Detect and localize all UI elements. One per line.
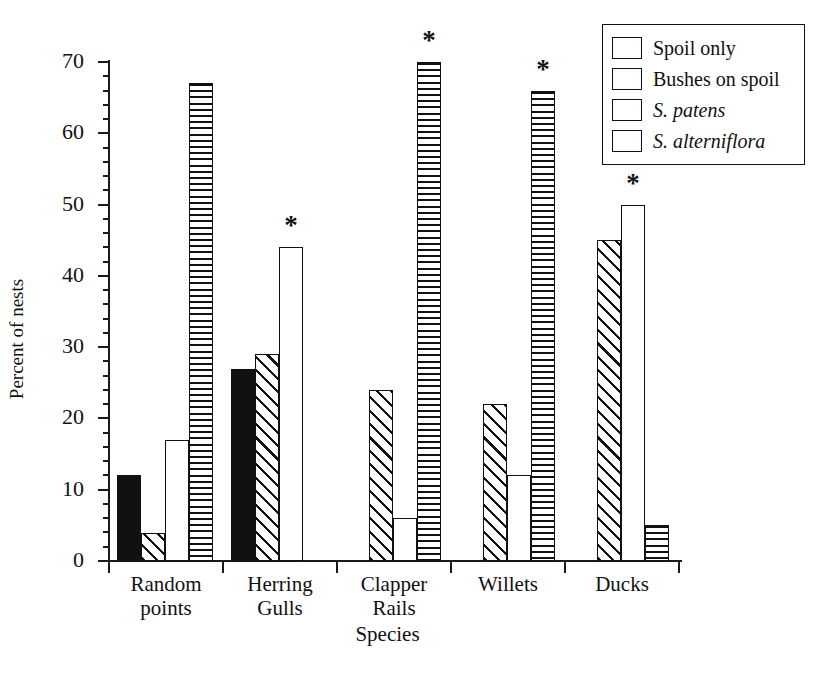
x-axis-category-label-line: Random bbox=[109, 573, 223, 597]
y-axis-minor-tick bbox=[103, 531, 109, 533]
x-axis-category-label-line: Rails bbox=[337, 597, 451, 621]
y-axis-tick-label: 20 bbox=[62, 406, 84, 428]
y-axis-minor-tick bbox=[103, 90, 109, 92]
bar bbox=[507, 475, 531, 561]
legend-swatch bbox=[612, 37, 642, 59]
legend-item: S. patens bbox=[612, 94, 795, 125]
bar bbox=[531, 91, 555, 561]
y-axis-minor-tick bbox=[103, 474, 109, 476]
y-axis-minor-tick bbox=[103, 189, 109, 191]
x-axis-category-label: Ducks bbox=[565, 573, 679, 597]
y-axis-minor-tick bbox=[103, 104, 109, 106]
y-axis-minor-tick bbox=[103, 432, 109, 434]
y-axis-minor-tick bbox=[103, 360, 109, 362]
y-axis-title: Percent of nests bbox=[6, 278, 28, 398]
bar bbox=[417, 62, 441, 561]
y-axis-minor-tick bbox=[103, 232, 109, 234]
legend-label: S. patens bbox=[653, 100, 725, 120]
y-axis-tick-label: 50 bbox=[62, 192, 84, 214]
bar bbox=[597, 240, 621, 561]
x-axis-tick bbox=[678, 562, 680, 573]
bar bbox=[255, 354, 279, 561]
y-axis-minor-tick bbox=[103, 161, 109, 163]
x-axis-title-text: Species bbox=[355, 622, 419, 646]
x-axis-category-label-line: Clapper bbox=[337, 573, 451, 597]
y-axis-minor-tick bbox=[103, 389, 109, 391]
bar bbox=[393, 518, 417, 561]
y-axis-tick-label: 60 bbox=[62, 121, 84, 143]
y-axis-minor-tick bbox=[103, 175, 109, 177]
significance-asterisk: * bbox=[536, 56, 550, 83]
y-axis-tick: 40 bbox=[98, 275, 109, 277]
legend-swatch bbox=[612, 99, 642, 121]
y-axis-minor-tick bbox=[103, 546, 109, 548]
y-axis-tick-label: 10 bbox=[62, 477, 84, 499]
y-axis-minor-tick bbox=[103, 303, 109, 305]
y-axis-minor-tick bbox=[103, 332, 109, 334]
y-axis-minor-tick bbox=[103, 503, 109, 505]
legend-swatch bbox=[612, 130, 642, 152]
y-axis-minor-tick bbox=[103, 218, 109, 220]
y-axis-tick-label: 40 bbox=[62, 263, 84, 285]
y-axis-tick: 50 bbox=[98, 204, 109, 206]
y-axis-minor-tick bbox=[103, 403, 109, 405]
bar-chart-figure: Percent of nests 010203040506070**** Ran… bbox=[0, 0, 819, 677]
bar bbox=[369, 390, 393, 561]
y-axis-tick-label: 30 bbox=[62, 335, 84, 357]
x-axis-title: Species bbox=[0, 622, 819, 647]
y-axis-minor-tick bbox=[103, 460, 109, 462]
x-axis-category-label-line: Herring bbox=[223, 573, 337, 597]
bar bbox=[189, 83, 213, 561]
y-axis-tick: 20 bbox=[98, 417, 109, 419]
y-axis-tick: 70 bbox=[98, 61, 109, 63]
bar bbox=[483, 404, 507, 561]
y-axis-tick-label: 70 bbox=[62, 50, 84, 72]
y-axis-minor-tick bbox=[103, 75, 109, 77]
y-axis-minor-tick bbox=[103, 517, 109, 519]
bar bbox=[645, 525, 669, 561]
y-axis-minor-tick bbox=[103, 318, 109, 320]
significance-asterisk: * bbox=[422, 27, 436, 54]
y-axis-tick: 60 bbox=[98, 132, 109, 134]
legend-label: Bushes on spoil bbox=[653, 69, 780, 89]
y-axis-tick: 10 bbox=[98, 489, 109, 491]
x-axis-category-label-line: Willets bbox=[451, 573, 565, 597]
y-axis-minor-tick bbox=[103, 118, 109, 120]
y-axis-minor-tick bbox=[103, 261, 109, 263]
bar bbox=[165, 440, 189, 561]
legend: Spoil onlyBushes on spoilS. patensS. alt… bbox=[602, 24, 805, 165]
x-axis-category-label-line: Gulls bbox=[223, 597, 337, 621]
x-axis-category-label: HerringGulls bbox=[223, 573, 337, 620]
significance-asterisk: * bbox=[626, 170, 640, 197]
x-axis-category-label-line: points bbox=[109, 597, 223, 621]
plot-area: 010203040506070**** bbox=[109, 62, 679, 561]
y-axis-minor-tick bbox=[103, 147, 109, 149]
x-axis-tick bbox=[336, 562, 338, 573]
y-axis-tick-label: 0 bbox=[73, 549, 84, 571]
y-axis-minor-tick bbox=[103, 289, 109, 291]
x-axis-tick bbox=[222, 562, 224, 573]
x-axis-tick bbox=[564, 562, 566, 573]
x-axis-category-label: ClapperRails bbox=[337, 573, 451, 620]
y-axis-tick: 30 bbox=[98, 346, 109, 348]
y-axis-minor-tick bbox=[103, 246, 109, 248]
significance-asterisk: * bbox=[284, 212, 298, 239]
legend-swatch bbox=[612, 68, 642, 90]
legend-item: Spoil only bbox=[612, 32, 795, 63]
bar bbox=[231, 369, 255, 561]
y-axis-minor-tick bbox=[103, 446, 109, 448]
legend-label: S. alterniflora bbox=[653, 131, 765, 151]
legend-label: Spoil only bbox=[653, 38, 736, 58]
bar bbox=[279, 247, 303, 561]
x-axis-category-label: Willets bbox=[451, 573, 565, 597]
x-axis-tick bbox=[450, 562, 452, 573]
bar bbox=[117, 475, 141, 561]
bar bbox=[141, 533, 165, 562]
x-axis-category-label: Randompoints bbox=[109, 573, 223, 620]
legend-item: S. alterniflora bbox=[612, 125, 795, 156]
x-axis-tick bbox=[108, 562, 110, 573]
bar bbox=[621, 205, 645, 561]
y-axis-minor-tick bbox=[103, 375, 109, 377]
legend-item: Bushes on spoil bbox=[612, 63, 795, 94]
x-axis-category-label-line: Ducks bbox=[565, 573, 679, 597]
